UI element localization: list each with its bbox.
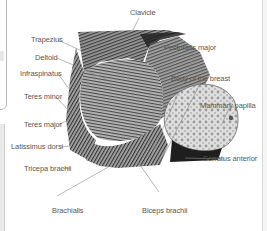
label-brachialis: Brachialis	[52, 206, 84, 215]
label-teres-minor: Teres minor	[24, 92, 62, 101]
label-teres-major: Teres major	[24, 120, 62, 129]
label-trapezius: Trapezius	[31, 35, 63, 44]
label-infraspinatus: Infraspinatus	[20, 69, 62, 78]
label-triceps-brachii: Tricepa brachii	[24, 164, 71, 173]
label-latissimus-dorsi: Latissimus dorsi	[11, 142, 63, 151]
label-deltoid: Deltoid	[35, 53, 58, 62]
label-serratus-anterior: Serratus anterior	[203, 154, 257, 163]
mammary-papilla-point	[229, 116, 233, 120]
deltoid-muscle	[80, 60, 163, 141]
label-mammary-papilla: Mammary papilla	[200, 101, 256, 110]
label-pectoralis-major: Pectoralis major	[164, 43, 216, 52]
label-clavicle: Clavicle	[130, 8, 155, 17]
label-biceps-brachii: Biceps brachii	[142, 206, 187, 215]
label-body-of-breast: Body of the breast	[171, 74, 230, 83]
